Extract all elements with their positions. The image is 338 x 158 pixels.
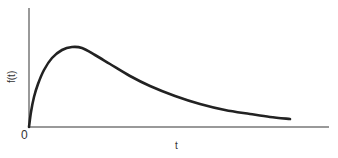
origin-label: 0 (21, 128, 28, 142)
x-axis-label: t (175, 140, 178, 151)
density-curve (29, 47, 290, 127)
y-axis-label: f(t) (6, 71, 17, 83)
chart: 0 t f(t) (0, 0, 338, 158)
